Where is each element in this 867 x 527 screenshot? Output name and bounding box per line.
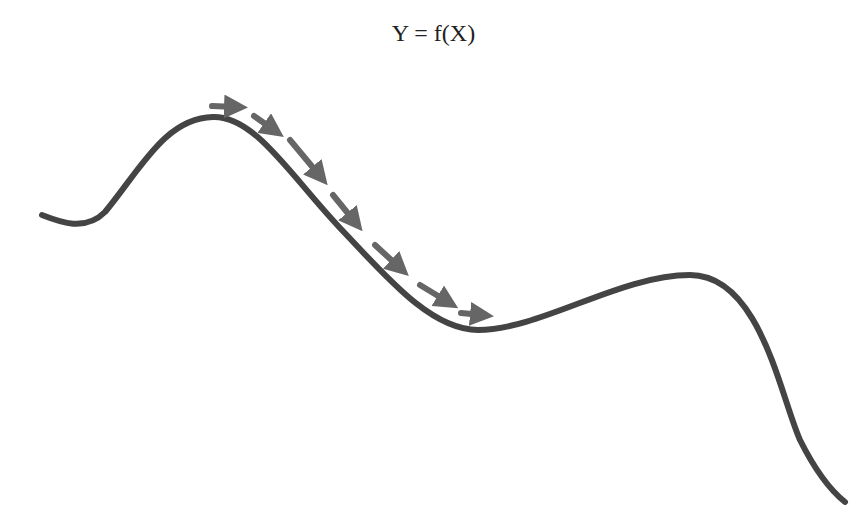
arrow-icon xyxy=(254,116,274,130)
arrow-icon xyxy=(461,313,482,315)
function-curve-diagram xyxy=(0,0,867,527)
function-curve xyxy=(42,117,845,502)
arrow-icon xyxy=(212,106,236,107)
arrow-icon xyxy=(290,140,320,176)
arrow-icon xyxy=(333,195,355,222)
descent-arrows xyxy=(212,106,482,315)
arrow-icon xyxy=(420,285,448,302)
